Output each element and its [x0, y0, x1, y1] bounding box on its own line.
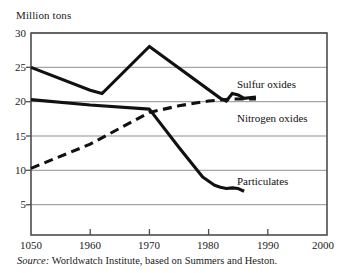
series-annotation-particulates: Particulates — [237, 175, 288, 187]
source-caption: Source: Worldwatch Institute, based on S… — [17, 255, 277, 266]
plot-area — [0, 0, 341, 273]
series-line-particulates — [31, 100, 244, 192]
y-axis-label-10: 10 — [4, 164, 26, 176]
x-axis-ticks — [90, 229, 268, 235]
y-axis-label-25: 25 — [4, 61, 26, 73]
y-axis-label-5: 5 — [4, 198, 26, 210]
y-axis-label-20: 20 — [4, 95, 26, 107]
y-axis-label-15: 15 — [4, 130, 26, 142]
chart-figure: Million tons 30 — [0, 0, 341, 273]
x-axis-label-1950: 1050 — [11, 239, 51, 251]
source-text: Worldwatch Institute, based on Summers a… — [49, 255, 277, 266]
source-label: Source: — [17, 255, 49, 266]
x-axis-label-1970: 1970 — [129, 239, 169, 251]
x-axis-label-2000: 2000 — [303, 239, 341, 251]
series-annotation-nitrogen-oxides: Nitrogen oxides — [237, 112, 308, 124]
x-axis-label-1980: 1980 — [188, 239, 228, 251]
x-axis-label-1960: 1960 — [70, 239, 110, 251]
x-axis-label-1990: 1990 — [248, 239, 288, 251]
series-line-sulfur-oxides — [31, 46, 256, 101]
series-annotation-sulfur-oxides: Sulfur oxides — [237, 78, 296, 90]
y-axis-label-30: 30 — [4, 27, 26, 39]
